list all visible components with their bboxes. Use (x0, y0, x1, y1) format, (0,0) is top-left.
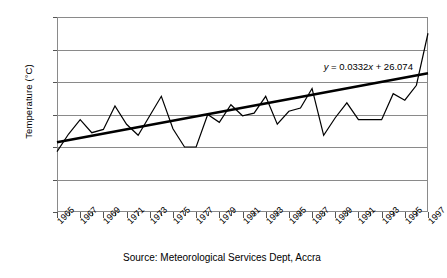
trendline-equation: y = 0.0332x + 26.074 (324, 61, 413, 72)
temperature-line (57, 33, 428, 151)
source-note: Source: Meteorological Services Dept, Ac… (0, 252, 444, 263)
trendline (57, 73, 428, 142)
